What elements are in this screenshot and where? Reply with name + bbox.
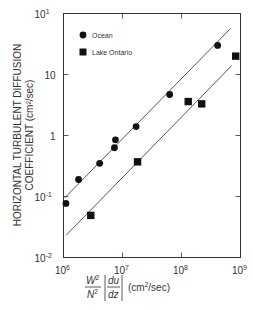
y-axis-title-line2: COEFFICIENT (cm²/sec) — [24, 80, 35, 191]
y-tick-label: 10-1 — [35, 191, 52, 203]
y-tick-label: 101 — [35, 8, 50, 20]
data-point-circle — [112, 136, 119, 143]
data-points — [63, 42, 240, 219]
y-tick-labels: 10110110-110-2 — [35, 8, 56, 264]
x-title-num-sup: 2 — [95, 274, 99, 281]
fit-line — [66, 66, 232, 236]
legend: Ocean Lake Ontario — [80, 32, 133, 57]
legend-label-ocean: Ocean — [92, 32, 113, 39]
x-tick-label: 109 — [232, 264, 247, 276]
x-title-frac2-den: dz — [108, 289, 119, 300]
y-tick-label: 1 — [50, 131, 56, 142]
data-point-circle — [166, 91, 173, 98]
x-tick-labels: 106107108109 — [55, 264, 247, 276]
y-axis-title-line1: HORIZONTAL TURBULENT DIFFUSION — [12, 44, 23, 226]
data-point-circle — [96, 160, 103, 167]
x-axis-title: W2 N2 du dz (cm2/sec) — [85, 274, 170, 301]
chart: 106107108109 10110110-110-2 Ocean Lake O… — [0, 0, 253, 310]
x-tick-label: 106 — [55, 264, 70, 276]
data-point-circle — [214, 42, 221, 49]
y-tick-label: 10 — [44, 70, 56, 81]
svg-text:W2: W2 — [86, 274, 99, 286]
y-tick-label: 10-2 — [35, 252, 52, 264]
data-point-square — [134, 158, 141, 165]
data-point-square — [87, 212, 94, 219]
data-point-square — [232, 52, 239, 59]
plot-frame — [64, 14, 241, 258]
data-point-circle — [111, 144, 118, 151]
legend-label-lake-ontario: Lake Ontario — [92, 49, 132, 56]
legend-circle-marker-icon — [80, 32, 87, 39]
data-point-circle — [133, 123, 140, 130]
data-point-circle — [63, 200, 70, 207]
x-title-den-sup: 2 — [94, 288, 98, 295]
x-title-units: (cm — [128, 282, 145, 293]
svg-text:(cm2/sec): (cm2/sec) — [128, 281, 170, 293]
x-tick-label: 107 — [114, 264, 129, 276]
axis-ticks — [64, 14, 241, 258]
y-axis-title: HORIZONTAL TURBULENT DIFFUSION COEFFICIE… — [12, 44, 35, 226]
svg-text:N2: N2 — [87, 288, 98, 300]
data-point-square — [198, 100, 205, 107]
x-title-units-tail: /sec) — [148, 282, 170, 293]
data-point-square — [185, 98, 192, 105]
legend-square-marker-icon — [80, 49, 87, 56]
x-title-frac2-num: du — [108, 275, 120, 286]
x-tick-label: 108 — [173, 264, 188, 276]
fit-line — [65, 28, 231, 197]
data-point-circle — [75, 176, 82, 183]
fit-lines — [65, 28, 232, 235]
